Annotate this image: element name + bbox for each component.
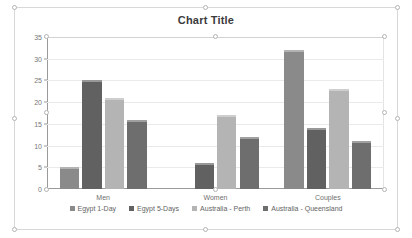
chart-object[interactable]: Chart Title 05101520253035 MenWomenCoupl… (14, 7, 398, 230)
bar-group (47, 37, 159, 189)
bar[interactable] (82, 80, 101, 189)
plot-resize-handle-top-center[interactable] (213, 34, 218, 39)
legend-swatch-icon (70, 206, 75, 211)
bar[interactable] (217, 115, 236, 189)
bar-series-layer (47, 37, 384, 189)
y-axis-tick-label: 30 (34, 55, 42, 62)
resize-handle-bottom-center[interactable] (203, 227, 208, 232)
legend-swatch-icon (129, 206, 134, 211)
plot-area[interactable]: 05101520253035 MenWomenCouples (47, 37, 384, 189)
plot-resize-handle-middle-right[interactable] (382, 110, 387, 115)
plot-resize-handle-bottom-center[interactable] (213, 187, 218, 192)
legend-item[interactable]: Australia - Perth (192, 205, 250, 212)
y-axis-tick-label: 5 (38, 164, 42, 171)
legend-label: Australia - Queensland (271, 205, 342, 212)
legend-item[interactable]: Egypt 5-Days (129, 205, 179, 212)
bar[interactable] (329, 89, 348, 189)
resize-handle-middle-left[interactable] (12, 116, 17, 121)
plot-resize-handle-bottom-right[interactable] (382, 187, 387, 192)
bar-highlight (60, 167, 79, 169)
bar[interactable] (195, 163, 214, 189)
resize-handle-bottom-left[interactable] (12, 227, 17, 232)
bar[interactable] (284, 50, 303, 189)
chart-title[interactable]: Chart Title (15, 14, 397, 26)
chart-legend[interactable]: Egypt 1-DayEgypt 5-DaysAustralia - Perth… (15, 205, 397, 212)
y-axis-tick-label: 25 (34, 77, 42, 84)
bar-highlight (82, 80, 101, 82)
legend-item[interactable]: Egypt 1-Day (70, 205, 117, 212)
resize-handle-bottom-right[interactable] (395, 227, 400, 232)
legend-label: Egypt 1-Day (78, 205, 117, 212)
bar[interactable] (105, 98, 124, 189)
bar[interactable] (60, 167, 79, 189)
x-axis-category-label: Men (96, 194, 110, 201)
legend-swatch-icon (263, 206, 268, 211)
y-axis-tick-label: 15 (34, 120, 42, 127)
bar-group (159, 37, 271, 189)
bar-highlight (195, 163, 214, 165)
y-axis-tick-label: 10 (34, 142, 42, 149)
legend-label: Egypt 5-Days (137, 205, 179, 212)
y-axis-tick-label: 20 (34, 99, 42, 106)
bar[interactable] (352, 141, 371, 189)
resize-handle-middle-right[interactable] (395, 116, 400, 121)
legend-swatch-icon (192, 206, 197, 211)
resize-handle-top-right[interactable] (395, 5, 400, 10)
bar-highlight (240, 137, 259, 139)
bar-highlight (217, 115, 236, 117)
bar-highlight (307, 128, 326, 130)
resize-handle-top-left[interactable] (12, 5, 17, 10)
bar[interactable] (240, 137, 259, 189)
plot-resize-handle-top-left[interactable] (44, 34, 49, 39)
y-axis-tick-label: 0 (38, 186, 42, 193)
plot-resize-handle-bottom-left[interactable] (44, 187, 49, 192)
plot-resize-handle-middle-left[interactable] (44, 110, 49, 115)
legend-label: Australia - Perth (200, 205, 250, 212)
bar[interactable] (127, 120, 146, 189)
bar-highlight (284, 50, 303, 52)
bar-highlight (105, 98, 124, 100)
resize-handle-top-center[interactable] (203, 5, 208, 10)
bar-group (272, 37, 384, 189)
bar-highlight (352, 141, 371, 143)
x-axis-category-label: Couples (315, 194, 341, 201)
y-axis-tick-label: 35 (34, 34, 42, 41)
bar-highlight (329, 89, 348, 91)
plot-resize-handle-top-right[interactable] (382, 34, 387, 39)
bar[interactable] (307, 128, 326, 189)
bar-highlight (127, 120, 146, 122)
x-axis-category-label: Women (204, 194, 228, 201)
legend-item[interactable]: Australia - Queensland (263, 205, 342, 212)
